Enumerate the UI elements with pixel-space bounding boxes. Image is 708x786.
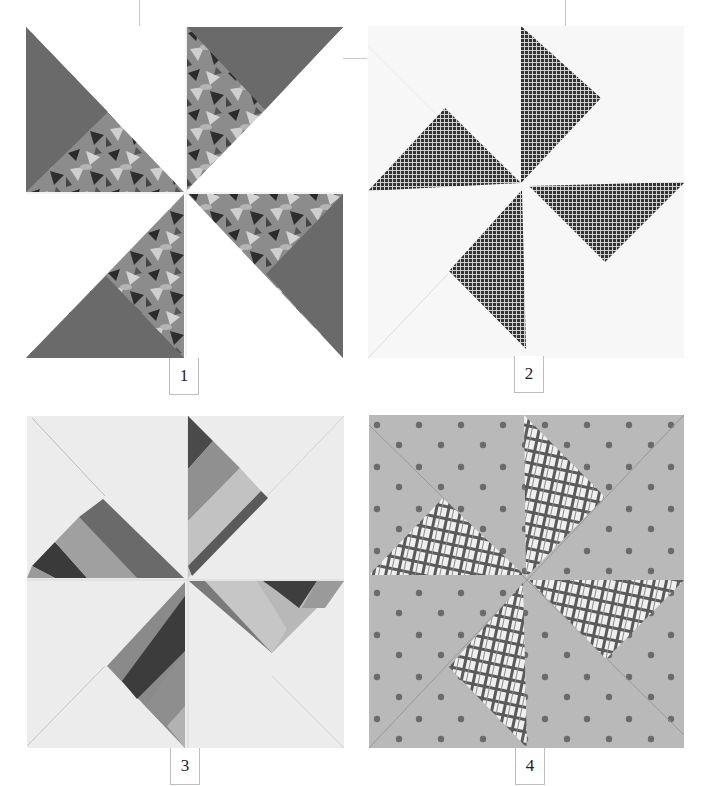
block-number: 3 (181, 756, 190, 776)
top-guide-rule-left (139, 0, 140, 26)
block-number-label-4: 4 (515, 748, 545, 785)
block-number: 2 (525, 364, 534, 384)
pinwheel-floral-illustration (26, 27, 343, 358)
side-guide-rule (343, 58, 367, 59)
quilt-block-2 (368, 26, 684, 358)
block-number-label-2: 2 (514, 356, 544, 393)
block-number-label-3: 3 (170, 748, 200, 785)
quilt-block-4 (369, 415, 684, 748)
quilt-block-3 (27, 416, 344, 748)
pinwheel-checked-illustration (368, 26, 684, 358)
block-number: 4 (526, 756, 535, 776)
block-number: 1 (180, 366, 189, 386)
pinwheel-striped-illustration (27, 416, 344, 748)
block-number-label-1: 1 (169, 358, 199, 395)
pinwheel-dotted-plaid-illustration (369, 415, 684, 748)
top-guide-rule-right (565, 0, 566, 26)
quilt-block-1 (26, 27, 343, 358)
